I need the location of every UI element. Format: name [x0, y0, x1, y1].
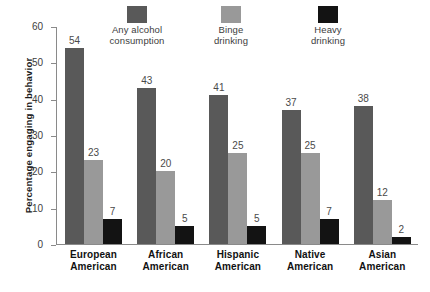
bar-value-label: 12 [377, 187, 388, 198]
y-axis-tick: 50 [51, 63, 56, 64]
bar: 43 [137, 88, 156, 244]
bar-value-label: 5 [254, 213, 260, 224]
bar-group: 37257 [282, 27, 339, 244]
bar: 41 [209, 95, 228, 244]
legend-swatch-heavy-drinking [318, 6, 338, 23]
bar: 7 [320, 219, 339, 244]
bar: 12 [373, 200, 392, 244]
bar-value-label: 20 [160, 158, 171, 169]
bar-value-label: 23 [88, 147, 99, 158]
bar-value-label: 7 [326, 206, 332, 217]
bar-group: 41255 [209, 27, 266, 244]
bar: 25 [301, 153, 320, 244]
bar-value-label: 38 [358, 93, 369, 104]
bar: 20 [156, 171, 175, 244]
y-axis-tick-label: 60 [32, 21, 43, 32]
bar: 37 [282, 110, 301, 244]
bar: 25 [228, 153, 247, 244]
bar-group: 54237 [65, 27, 122, 244]
bar: 5 [175, 226, 194, 244]
y-axis-tick-label: 0 [37, 239, 43, 250]
bar: 7 [103, 219, 122, 244]
y-axis-tick-label: 30 [32, 130, 43, 141]
bar-value-label: 41 [213, 82, 224, 93]
bar-value-label: 37 [286, 97, 297, 108]
bar: 2 [392, 237, 411, 244]
bar-value-label: 54 [69, 35, 80, 46]
bar: 23 [84, 160, 103, 244]
x-axis-category-label: Asian American [337, 249, 427, 273]
bar-value-label: 2 [399, 224, 405, 235]
y-axis-tick: 0 [51, 245, 56, 246]
y-axis-tick: 20 [51, 172, 56, 173]
bar-value-label: 5 [182, 213, 188, 224]
bar: 54 [65, 48, 84, 244]
y-axis-tick: 10 [51, 209, 56, 210]
bar-series-container: 5423743205412553725738122 [57, 27, 418, 244]
y-axis-tick-label: 10 [32, 203, 43, 214]
y-axis-tick-label: 50 [32, 57, 43, 68]
bar-value-label: 25 [232, 140, 243, 151]
bar: 5 [247, 226, 266, 244]
y-axis-tick: 60 [51, 27, 56, 28]
plot-area: 0102030405060 5423743205412553725738122 [56, 27, 418, 245]
y-axis-tick: 40 [51, 100, 56, 101]
y-axis-tick: 30 [51, 136, 56, 137]
y-axis-tick-label: 40 [32, 94, 43, 105]
bar-value-label: 7 [110, 206, 116, 217]
bar-group: 43205 [137, 27, 194, 244]
clipped-caption [0, 286, 430, 292]
legend-swatch-binge-drinking [221, 6, 241, 23]
bar-value-label: 43 [141, 75, 152, 86]
bar: 38 [354, 106, 373, 244]
legend-swatch-any-alcohol-consumption [127, 6, 147, 23]
x-axis-line [56, 244, 418, 245]
x-axis-category-labels: European AmericanAfrican AmericanHispani… [57, 249, 418, 283]
bar-group: 38122 [354, 27, 411, 244]
y-axis-tick-label: 20 [32, 166, 43, 177]
bar-value-label: 25 [305, 140, 316, 151]
